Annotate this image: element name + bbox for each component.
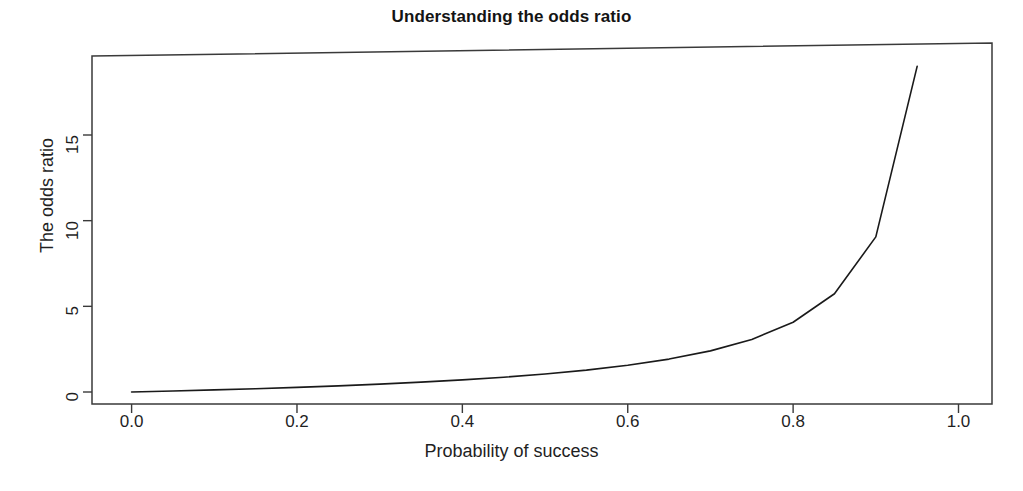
y-axis-label: The odds ratio (37, 86, 58, 306)
x-tick-label: 1.0 (929, 412, 989, 432)
x-tick-label: 0.8 (763, 412, 823, 432)
y-tick-label: 0 (63, 392, 83, 432)
y-axis-ticks (83, 135, 92, 392)
x-axis-ticks (132, 404, 959, 413)
x-tick-label: 0.4 (432, 412, 492, 432)
x-axis-label: Probability of success (0, 441, 1023, 462)
y-tick-label: 15 (63, 135, 83, 175)
y-tick-label: 10 (63, 221, 83, 261)
chart-figure: Understanding the odds ratio 0.00.20.40.… (0, 0, 1023, 491)
x-tick-label: 0.0 (102, 412, 162, 432)
x-tick-label: 0.2 (267, 412, 327, 432)
y-tick-label: 5 (63, 306, 83, 346)
odds-ratio-curve (132, 66, 918, 392)
plot-frame (92, 43, 992, 404)
x-tick-label: 0.6 (598, 412, 658, 432)
